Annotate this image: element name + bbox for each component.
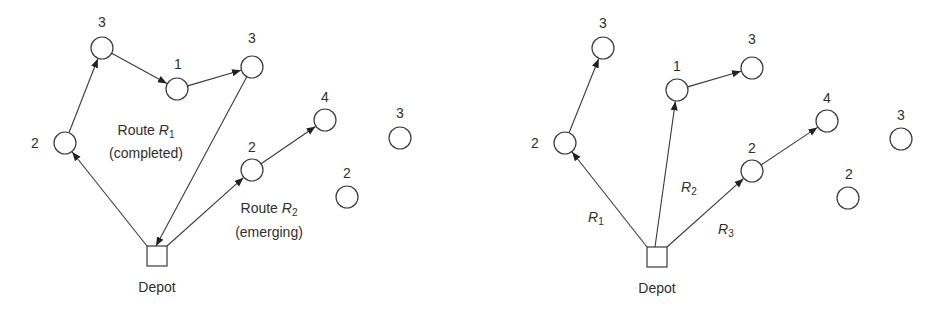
- demand-label: 2: [248, 139, 256, 155]
- demand-label: 1: [174, 56, 182, 72]
- demand-label: 1: [673, 58, 681, 74]
- depot-label: Depot: [638, 280, 675, 296]
- demand-label: 3: [396, 105, 404, 121]
- demand-label: 3: [599, 15, 607, 31]
- customer-node: [91, 37, 113, 59]
- customer-node: [666, 79, 688, 101]
- route-label: R3: [718, 221, 734, 239]
- route-annotation-status: (completed): [109, 145, 183, 161]
- demand-label: 3: [248, 30, 256, 46]
- depot-square: [147, 246, 167, 266]
- route-arrow: [156, 77, 247, 246]
- route-label: R1: [588, 209, 604, 227]
- route-construction-figure: 23134232DepotRoute R1(completed)Route R2…: [0, 0, 942, 316]
- customer-node: [389, 127, 411, 149]
- route-arrow: [69, 59, 98, 133]
- customer-node: [816, 110, 838, 132]
- customer-node: [241, 56, 263, 78]
- route-arrow: [761, 127, 817, 164]
- route-arrow: [688, 71, 741, 87]
- route-arrow: [572, 152, 647, 247]
- customer-node: [54, 132, 76, 154]
- depot-square: [647, 247, 667, 267]
- customer-node: [890, 128, 912, 150]
- customer-node: [592, 37, 614, 59]
- demand-label: 2: [845, 166, 853, 182]
- demand-label: 3: [98, 14, 106, 30]
- route-annotation-title: Route R2: [241, 200, 298, 218]
- route-arrow: [188, 70, 241, 86]
- demand-label: 3: [897, 107, 905, 123]
- customer-node: [241, 159, 263, 181]
- depot-label: Depot: [138, 279, 175, 295]
- route-arrow: [261, 127, 315, 164]
- customer-node: [741, 57, 763, 79]
- route-arrow: [112, 53, 167, 83]
- demand-label: 4: [321, 89, 329, 105]
- route-arrow: [655, 101, 675, 247]
- customer-node: [837, 187, 859, 209]
- route-label: R2: [681, 179, 697, 197]
- demand-label: 2: [531, 135, 539, 151]
- customer-node: [166, 78, 188, 100]
- customer-node: [314, 109, 336, 131]
- route-arrow: [72, 152, 147, 246]
- customer-node: [554, 132, 576, 154]
- customer-node: [741, 160, 763, 182]
- demand-label: 3: [748, 31, 756, 47]
- demand-label: 4: [823, 90, 831, 106]
- vrp-diagram-canvas: 23134232DepotRoute R1(completed)Route R2…: [0, 0, 942, 316]
- route-arrow: [167, 178, 243, 246]
- route-annotation-status: (emerging): [235, 224, 303, 240]
- customer-node: [336, 186, 358, 208]
- route-annotation-title: Route R1: [118, 122, 175, 140]
- demand-label: 2: [748, 140, 756, 156]
- route-arrow: [569, 59, 599, 133]
- demand-label: 2: [343, 165, 351, 181]
- demand-label: 2: [31, 135, 39, 151]
